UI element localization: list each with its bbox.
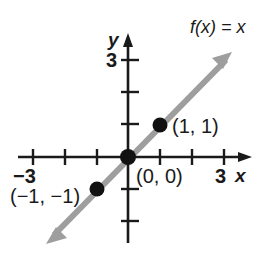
point-label-0-0: (0, 0)	[136, 166, 183, 186]
y-axis-group	[121, 33, 139, 243]
data-point--1--1	[90, 182, 105, 197]
y-axis-arrow	[123, 33, 133, 47]
data-point-0-0	[120, 149, 136, 165]
function-line-group	[46, 52, 232, 244]
function-line-arrow-up-right	[212, 52, 232, 69]
point-label-1-1: (1, 1)	[172, 116, 219, 136]
x-tick-label-neg3: −3	[13, 166, 36, 186]
coordinate-plane-svg	[0, 0, 275, 261]
function-label: f(x) = x	[190, 18, 246, 36]
x-axis-label: x	[235, 166, 246, 185]
point-label-neg1-neg1: (−1, −1)	[10, 186, 80, 206]
y-tick-label-3: 3	[106, 50, 117, 70]
x-tick-label-3: 3	[215, 166, 226, 186]
function-line-arrow-down-left	[46, 227, 67, 244]
data-point-1-1	[153, 118, 168, 133]
y-axis-label: y	[108, 30, 119, 49]
x-axis-arrow	[238, 152, 252, 162]
function-line	[54, 60, 226, 235]
graph-figure: y x 3 3 −3 (1, 1) (0, 0) (−1, −1) f(x) =…	[0, 0, 275, 261]
